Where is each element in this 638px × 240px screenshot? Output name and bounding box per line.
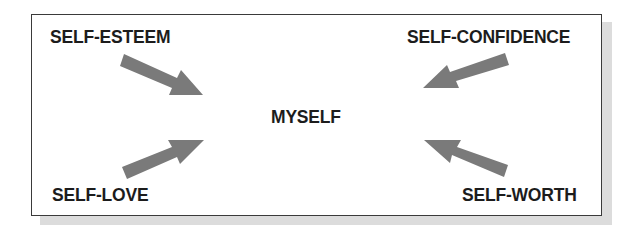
input-label-self-confidence: SELF-CONFIDENCE [407,29,570,47]
input-label-self-esteem: SELF-ESTEEM [50,29,170,47]
arrow-self-confidence-icon [423,53,509,88]
arrow-self-worth-icon [424,140,508,177]
arrow-self-esteem-icon [120,54,203,95]
arrow-self-love-icon [122,140,204,179]
center-label-myself: MYSELF [271,109,341,127]
input-label-self-love: SELF-LOVE [52,187,148,205]
input-label-self-worth: SELF-WORTH [462,187,577,205]
